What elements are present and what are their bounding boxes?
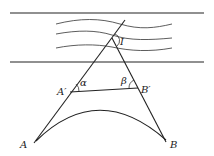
label-b-prime: B′ xyxy=(140,84,151,95)
line-to-b xyxy=(112,38,166,142)
label-b: B xyxy=(169,139,177,150)
refraction-diagram: I A′ B′ α β A B xyxy=(0,0,214,156)
label-beta: β xyxy=(120,75,127,86)
wave-line-1 xyxy=(56,20,172,28)
wave-line-3 xyxy=(56,45,172,51)
baseline-a-prime-b-prime xyxy=(70,88,138,92)
label-a: A xyxy=(19,139,27,150)
label-a-prime: A′ xyxy=(56,86,67,97)
label-alpha: α xyxy=(80,77,87,88)
angle-arc-beta xyxy=(129,80,134,89)
